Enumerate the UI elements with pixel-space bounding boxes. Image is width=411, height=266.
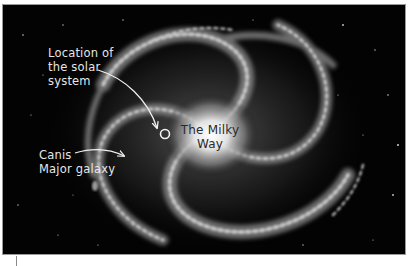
canis-major-label-line-1: Canis bbox=[39, 148, 115, 162]
canis-major-label: Canis Major galaxy bbox=[39, 148, 115, 176]
solar-system-label-line-1: Location of bbox=[48, 46, 114, 60]
bottom-left-tick-mark bbox=[16, 256, 17, 266]
solar-system-label: Location of the solar system bbox=[48, 46, 114, 88]
solar-system-label-line-2: the solar bbox=[48, 60, 114, 74]
milky-way-label: The Milky Way bbox=[178, 123, 242, 151]
milky-way-label-line-2: Way bbox=[178, 137, 242, 151]
milky-way-label-line-1: The Milky bbox=[178, 123, 242, 137]
galaxy-photo: Location of the solar system The Milky W… bbox=[3, 5, 405, 254]
solar-system-label-line-3: system bbox=[48, 74, 114, 88]
canis-major-label-line-2: Major galaxy bbox=[39, 162, 115, 176]
galaxy-figure: Location of the solar system The Milky W… bbox=[0, 0, 411, 266]
